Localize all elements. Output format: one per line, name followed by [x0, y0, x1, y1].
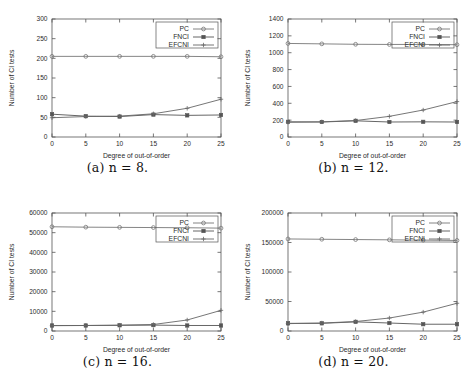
x-tick-label: 5 [84, 334, 88, 341]
filled-square-marker [455, 323, 458, 326]
filled-square-marker [388, 120, 391, 123]
filled-square-marker [186, 324, 189, 327]
y-axis-title: Number of CI tests [244, 49, 251, 106]
y-tick-label: 200000 [261, 209, 283, 216]
y-tick-label: 250 [36, 35, 47, 42]
y-tick-label: 0 [280, 133, 284, 140]
legend-label-efcni: EFCNI [169, 41, 190, 48]
filled-square-marker [219, 113, 222, 116]
filled-square-marker [219, 324, 222, 327]
x-axis-title: Degree of out-of-order [339, 152, 407, 160]
filled-square-marker [455, 120, 458, 123]
line-chart-b: 02004006008001000120014000510152025Degre… [236, 0, 471, 160]
legend-label-pc: PC [416, 25, 426, 32]
x-tick-label: 20 [184, 140, 192, 147]
legend: PCFNCIEFCNI [156, 216, 218, 242]
series-line [288, 102, 457, 123]
x-tick-label: 15 [386, 140, 394, 147]
filled-square-marker [50, 112, 53, 115]
y-tick-label: 200 [272, 117, 283, 124]
chart-panel-a: 0501001502002503000510152025Degree of ou… [0, 0, 235, 194]
series-pc [286, 237, 459, 242]
filled-square-marker [202, 35, 205, 38]
series-pc [50, 225, 223, 230]
series-line [52, 227, 221, 228]
y-tick-label: 0 [44, 327, 48, 334]
filled-square-marker [202, 229, 205, 232]
y-axis-title: Number of CI tests [8, 49, 15, 106]
legend: PCFNCIEFCNI [156, 22, 218, 48]
plot-area-c: 0100002000030000400005000060000051015202… [0, 194, 235, 354]
x-tick-label: 5 [84, 140, 88, 147]
y-tick-label: 1400 [269, 15, 284, 22]
x-tick-label: 0 [286, 334, 290, 341]
y-tick-label: 100000 [261, 268, 283, 275]
series-efcni [50, 308, 223, 328]
y-axis-title: Number of CI tests [244, 243, 251, 300]
x-tick-label: 15 [386, 334, 394, 341]
y-axis-title: Number of CI tests [8, 243, 15, 300]
caption-a: (a) n = 8. [0, 160, 235, 175]
plot-area-b: 02004006008001000120014000510152025Degre… [236, 0, 471, 160]
y-tick-label: 800 [272, 66, 283, 73]
y-tick-label: 20000 [29, 288, 48, 295]
filled-square-marker [438, 229, 441, 232]
filled-square-marker [422, 120, 425, 123]
x-axis-title: Degree of out-of-order [339, 346, 407, 354]
series-efcni [50, 97, 223, 120]
legend-label-pc: PC [416, 219, 426, 226]
y-tick-label: 40000 [29, 249, 48, 256]
x-tick-label: 25 [217, 140, 225, 147]
series-line [288, 303, 457, 323]
filled-square-marker [438, 35, 441, 38]
x-tick-label: 25 [453, 140, 461, 147]
y-tick-label: 10000 [29, 308, 48, 315]
legend-label-fnci: FNCI [409, 33, 425, 40]
line-chart-c: 0100002000030000400005000060000051015202… [0, 194, 235, 354]
x-tick-label: 5 [320, 334, 324, 341]
plot-area-d: 0500001000001500002000000510152025Degree… [236, 194, 471, 354]
filled-square-marker [388, 321, 391, 324]
y-tick-label: 150000 [261, 239, 283, 246]
caption-b: (b) n = 12. [236, 160, 471, 175]
series-pc [50, 54, 223, 58]
series-fnci [286, 119, 458, 124]
x-tick-label: 5 [320, 140, 324, 147]
y-tick-label: 0 [280, 327, 284, 334]
legend-label-fnci: FNCI [173, 33, 189, 40]
legend-label-pc: PC [180, 219, 190, 226]
line-chart-d: 0500001000001500002000000510152025Degree… [236, 194, 471, 354]
x-tick-label: 20 [184, 334, 192, 341]
y-tick-label: 1000 [269, 49, 284, 56]
plot-area-a: 0501001502002503000510152025Degree of ou… [0, 0, 235, 160]
series-line [52, 310, 221, 325]
legend: PCFNCIEFCNI [392, 216, 454, 242]
x-axis-title: Degree of out-of-order [103, 152, 171, 160]
y-tick-label: 200 [36, 55, 47, 62]
figure-panel-grid: 0501001502002503000510152025Degree of ou… [0, 0, 471, 388]
x-tick-label: 10 [352, 334, 360, 341]
line-chart-a: 0501001502002503000510152025Degree of ou… [0, 0, 235, 160]
chart-panel-c: 0100002000030000400005000060000051015202… [0, 194, 235, 388]
chart-panel-d: 0500001000001500002000000510152025Degree… [236, 194, 471, 388]
x-tick-label: 25 [217, 334, 225, 341]
x-tick-label: 25 [453, 334, 461, 341]
x-axis-title: Degree of out-of-order [103, 346, 171, 354]
x-tick-label: 10 [116, 140, 124, 147]
y-tick-label: 30000 [29, 268, 48, 275]
x-tick-label: 0 [286, 140, 290, 147]
legend-label-efcni: EFCNI [169, 235, 190, 242]
y-tick-label: 60000 [29, 209, 48, 216]
legend-label-efcni: EFCNI [405, 41, 426, 48]
x-tick-label: 10 [116, 334, 124, 341]
chart-panel-b: 02004006008001000120014000510152025Degre… [236, 0, 471, 194]
x-tick-label: 20 [420, 140, 428, 147]
y-tick-label: 150 [36, 74, 47, 81]
series-efcni [286, 99, 459, 124]
y-tick-label: 50000 [29, 229, 48, 236]
x-tick-label: 20 [420, 334, 428, 341]
x-tick-label: 15 [150, 334, 158, 341]
y-tick-label: 300 [36, 15, 47, 22]
legend-label-pc: PC [180, 25, 190, 32]
x-tick-label: 0 [50, 334, 54, 341]
